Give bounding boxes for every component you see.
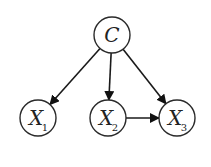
node-subscript: 3 [181, 122, 187, 133]
node-label: C [104, 23, 119, 47]
node-x3: X3 [159, 100, 195, 136]
node-subscript: 1 [42, 122, 48, 133]
node-x1: X1 [20, 100, 56, 136]
nodes-group: CX1X2X3 [20, 17, 195, 136]
diagram-canvas: CX1X2X3 [0, 0, 211, 167]
node-subscript: 2 [112, 122, 118, 133]
node-x2: X2 [90, 100, 126, 136]
edge-c-to-x3 [123, 49, 166, 104]
edge-c-to-x1 [50, 48, 100, 104]
edge-c-to-x2 [109, 53, 111, 100]
node-c: C [94, 17, 130, 53]
